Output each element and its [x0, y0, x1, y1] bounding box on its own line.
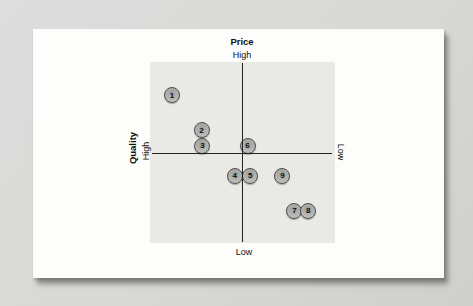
marker-label: 9	[280, 171, 284, 180]
figure-background: { "figure": { "description": "Price-qual…	[0, 0, 473, 306]
marker-label: 2	[199, 126, 203, 135]
data-point-marker: 3	[194, 138, 210, 154]
marker-label: 5	[248, 171, 252, 180]
price-low-label: Low	[236, 248, 253, 257]
marker-label: 4	[232, 171, 236, 180]
data-point-marker: 5	[242, 168, 258, 184]
marker-label: 1	[170, 91, 174, 100]
quality-low-label: Low	[336, 144, 345, 161]
quality-high-label: High	[142, 142, 151, 161]
data-point-marker: 2	[194, 122, 210, 138]
marker-label: 3	[200, 141, 204, 150]
data-point-marker: 4	[227, 168, 243, 184]
quality-axis-line	[152, 153, 332, 154]
marker-label: 6	[245, 141, 249, 150]
data-point-marker: 1	[164, 87, 180, 103]
marker-label: 7	[292, 206, 296, 215]
data-point-marker: 8	[300, 203, 316, 219]
data-point-marker: 9	[274, 168, 290, 184]
price-axis-title: Price	[230, 37, 253, 47]
marker-label: 8	[306, 206, 310, 215]
figure-card: 123456789 Price High Low Quality High Lo…	[33, 29, 444, 278]
price-high-label: High	[233, 51, 252, 60]
quality-axis-title: Quality	[128, 132, 138, 164]
